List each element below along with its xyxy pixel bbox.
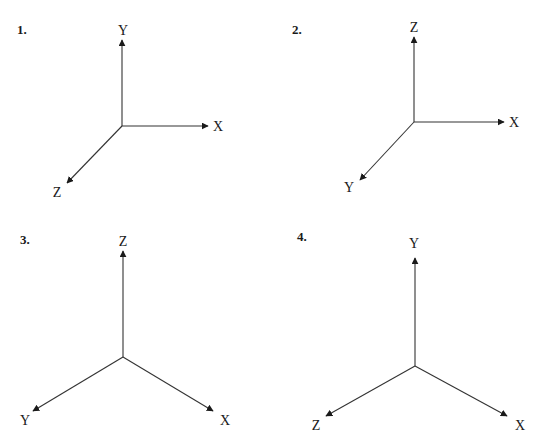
diagram-number: 3.	[20, 232, 30, 247]
axis-label-x: X	[509, 115, 519, 130]
axis-label-z: Z	[312, 418, 321, 433]
axis-label-z: Z	[119, 234, 128, 249]
axis-label-y: Y	[409, 236, 419, 251]
axis-line-y	[360, 122, 414, 180]
axis-label-y: Y	[118, 23, 128, 38]
diagram-4: 4. Y Z X	[297, 229, 525, 433]
axis-line-y	[33, 357, 123, 411]
diagram-number: 4.	[297, 229, 307, 244]
axis-line-z	[326, 366, 415, 416]
coordinate-systems-figure: 1. Y X Z 2. Z X Y 3. Z Y X 4. Y Z X	[0, 0, 538, 445]
axis-label-x: X	[213, 119, 223, 134]
diagram-number: 2.	[292, 22, 302, 37]
axis-line-x	[123, 357, 213, 411]
diagram-1: 1. Y X Z	[17, 22, 223, 200]
diagram-2: 2. Z X Y	[292, 20, 519, 195]
axis-label-z: Z	[53, 185, 62, 200]
axis-label-z: Z	[410, 20, 419, 35]
axis-line-z	[67, 126, 122, 183]
diagram-3: 3. Z Y X	[20, 232, 230, 428]
axis-line-x	[415, 366, 507, 416]
axis-label-x: X	[220, 413, 230, 428]
axis-label-x: X	[515, 418, 525, 433]
axis-label-y: Y	[20, 413, 30, 428]
diagram-number: 1.	[17, 22, 27, 37]
axis-label-y: Y	[344, 180, 354, 195]
